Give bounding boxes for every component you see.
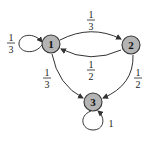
svg-text:1: 1 [136,67,141,78]
label-1-to-1: 1 3 [7,32,15,55]
node-1: 1 [42,35,60,53]
svg-text:1: 1 [89,59,94,70]
edge-2-to-1 [61,49,121,57]
node-3: 3 [84,93,102,111]
label-2-to-3: 1 2 [134,67,142,90]
label-1-to-3: 1 3 [43,67,51,90]
svg-text:2: 2 [136,79,141,90]
svg-text:1: 1 [45,67,50,78]
svg-text:3: 3 [90,96,96,108]
edge-1-to-3 [52,54,83,98]
svg-text:2: 2 [128,39,134,51]
node-2: 2 [122,36,140,54]
edge-1-to-2 [60,32,121,40]
markov-diagram: 1 2 3 1 3 1 3 1 2 1 3 1 2 1 [0,0,148,143]
label-3-to-3: 1 [109,118,114,129]
svg-text:2: 2 [89,71,94,82]
svg-text:1: 1 [9,32,14,43]
svg-text:1: 1 [89,9,94,20]
self-loop-1 [19,35,42,51]
self-loop-3 [83,111,103,130]
label-1-to-2: 1 3 [87,9,95,32]
svg-text:3: 3 [89,21,94,32]
svg-text:1: 1 [48,38,54,50]
label-2-to-1: 1 2 [87,59,95,82]
svg-text:3: 3 [45,79,50,90]
edge-2-to-3 [103,55,133,98]
svg-text:3: 3 [9,44,14,55]
